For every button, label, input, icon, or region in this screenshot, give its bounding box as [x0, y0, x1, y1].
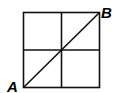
label-a: A: [7, 79, 18, 93]
label-b: B: [101, 5, 112, 20]
